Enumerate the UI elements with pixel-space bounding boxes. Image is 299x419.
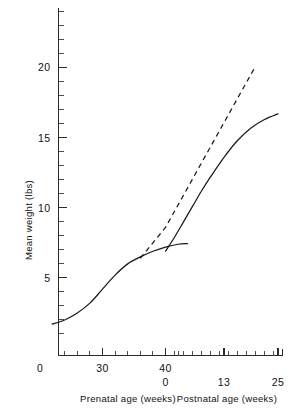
x-tick-label-postnatal: 0 [162, 376, 168, 388]
chart-canvas: 5101520 Mean weight (lbs) 03040 01325 Pr… [0, 0, 299, 419]
x-tick-label-prenatal: 30 [96, 362, 108, 374]
y-axis-title: Mean weight (lbs) [23, 180, 34, 260]
y-tick-label: 15 [38, 132, 50, 144]
y-axis-tick-labels: 5101520 [38, 61, 50, 283]
postnatal-growth-curve-path [166, 114, 279, 251]
x-axis-title-prenatal: Prenatal age (weeks) [80, 393, 176, 404]
y-tick-label: 20 [38, 61, 50, 73]
prenatal-growth-curve-path [52, 244, 187, 325]
x-axis-ticks [65, 348, 278, 356]
x-tick-label-prenatal: 40 [159, 362, 171, 374]
x-axis-title-postnatal: Postnatal age (weeks) [177, 393, 277, 404]
extrapolated-intrauterine-curve-path [140, 66, 255, 258]
y-axis-ticks [59, 12, 68, 334]
growth-chart-figure: 5101520 Mean weight (lbs) 03040 01325 Pr… [0, 0, 299, 419]
x-axis-postnatal-tick-labels: 01325 [162, 376, 284, 388]
y-axis: 5101520 [38, 8, 67, 352]
x-tick-label-postnatal: 13 [218, 376, 230, 388]
x-axis: 03040 01325 [37, 348, 284, 388]
x-tick-label-prenatal: 0 [37, 362, 43, 374]
x-tick-label-postnatal: 25 [272, 376, 284, 388]
x-axis-prenatal-tick-labels: 03040 [37, 362, 172, 374]
y-tick-label: 10 [38, 202, 50, 214]
y-tick-label: 5 [44, 272, 50, 284]
